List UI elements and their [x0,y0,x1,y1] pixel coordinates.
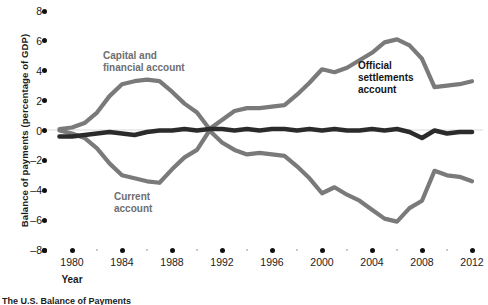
x-minor-tick-dot [346,249,348,251]
y-tick-label: 6 [20,36,42,47]
plot-area [47,0,483,260]
x-minor-tick-dot [96,249,98,251]
x-tick-label: 2012 [449,256,488,268]
y-tick-dot [42,9,47,14]
x-tick-dot [120,248,125,253]
x-minor-tick-dot [446,249,448,251]
x-tick-dot [270,248,275,253]
x-minor-tick-dot [246,249,248,251]
y-tick-label: –4 [20,185,42,196]
x-tick-dot [70,248,75,253]
x-tick-label: 2004 [349,256,395,268]
x-tick-label: 1980 [49,256,95,268]
x-tick-dot [370,248,375,253]
x-tick-label: 1988 [149,256,195,268]
official-settlements-account-label: Official settlements account [358,60,414,96]
x-tick-dot [470,248,475,253]
y-tick-label: 4 [20,66,42,77]
capital-and-financial-account-label: Capital and financial account [103,50,185,74]
y-tick-dot [42,128,47,133]
figure-caption: The U.S. Balance of Payments [2,296,131,305]
y-tick-label: –2 [20,155,42,166]
y-tick-dot [42,218,47,223]
y-tick-label: –8 [20,245,42,256]
y-tick-dot [42,188,47,193]
x-tick-label: 2000 [299,256,345,268]
x-axis-title: Year [49,274,95,285]
x-minor-tick-dot [146,249,148,251]
plot-svg [47,0,483,260]
x-tick-dot [170,248,175,253]
x-tick-dot [320,248,325,253]
y-tick-dot [42,158,47,163]
x-tick-dot [220,248,225,253]
x-minor-tick-dot [296,249,298,251]
x-origin-dot [42,248,47,253]
y-tick-label: –6 [20,215,42,226]
x-minor-tick-dot [396,249,398,251]
x-tick-label: 1984 [99,256,145,268]
x-minor-tick-dot [196,249,198,251]
y-tick-label: 2 [20,96,42,107]
y-tick-label: 0 [20,126,42,137]
x-tick-label: 1996 [249,256,295,268]
current-account-label: Current account [114,191,152,215]
x-tick-label: 2008 [399,256,445,268]
y-tick-label: 8 [20,6,42,17]
x-tick-label: 1992 [199,256,245,268]
x-tick-dot [420,248,425,253]
